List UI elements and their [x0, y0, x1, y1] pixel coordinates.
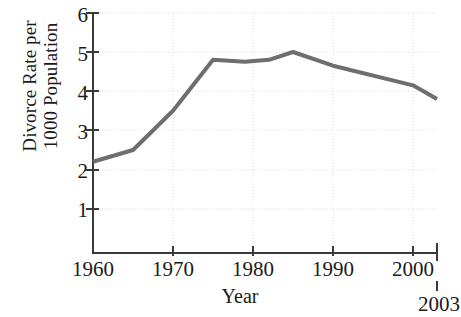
- divorce-rate-line-chart: Divorce Rate per 1000 Population 6 5 4 3…: [0, 0, 461, 317]
- plot-area: [0, 0, 461, 317]
- divorce-rate-series-line: [93, 52, 437, 162]
- x-axis-ticks: [173, 246, 413, 256]
- vertical-gridlines: [173, 13, 413, 253]
- horizontal-gridlines: [93, 13, 437, 209]
